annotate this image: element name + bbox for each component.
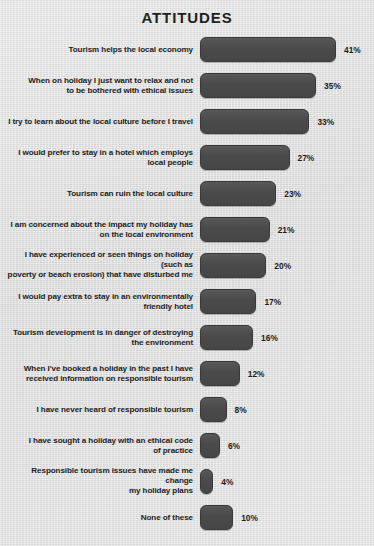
- bar-row: Tourism helps the local economy41%: [0, 37, 374, 62]
- bar-value-label: 20%: [274, 261, 291, 271]
- bar-value-label: 17%: [264, 297, 281, 307]
- bar-track: 8%: [200, 397, 374, 422]
- bar-category-label: I have never heard of responsible touris…: [7, 404, 193, 414]
- bar-row: Tourism can ruin the local culture23%: [0, 181, 374, 206]
- bar-category-label: I have sought a holiday with an ethical …: [7, 435, 193, 456]
- bar: [200, 217, 270, 242]
- bar-track: 6%: [200, 433, 374, 458]
- bar-category-label: Tourism helps the local economy: [7, 44, 193, 54]
- bar-category-label: I would prefer to stay in a hotel which …: [7, 147, 193, 168]
- bar-value-label: 33%: [317, 117, 334, 127]
- bar: [200, 73, 316, 98]
- bar: [200, 289, 256, 314]
- bar-value-label: 16%: [261, 333, 278, 343]
- bar-value-label: 41%: [344, 45, 361, 55]
- bar-value-label: 10%: [241, 513, 258, 523]
- bar: [200, 433, 220, 458]
- chart-title: ATTITUDES: [0, 9, 374, 26]
- bar: [200, 37, 336, 62]
- bar-row: When I've booked a holiday in the past I…: [0, 361, 374, 386]
- bar-category-label: I try to learn about the local culture b…: [7, 116, 193, 126]
- bar: [200, 253, 266, 278]
- bar-value-label: 12%: [248, 369, 265, 379]
- bar-row: I have sought a holiday with an ethical …: [0, 433, 374, 458]
- bar-category-label: I am concerned about the impact my holid…: [7, 219, 193, 240]
- bar-category-label: Responsible tourism issues have made me …: [7, 466, 193, 497]
- bar-row: I have never heard of responsible touris…: [0, 397, 374, 422]
- bar-track: 10%: [200, 505, 374, 530]
- bar-row: None of these10%: [0, 505, 374, 530]
- bar-value-label: 27%: [298, 153, 315, 163]
- bar-track: 41%: [200, 37, 374, 62]
- bar-row: I would prefer to stay in a hotel which …: [0, 145, 374, 170]
- bar-category-label: Tourism can ruin the local culture: [7, 188, 193, 198]
- bar-row: When on holiday I just want to relax and…: [0, 73, 374, 98]
- bar-track: 16%: [200, 325, 374, 350]
- bar-track: 12%: [200, 361, 374, 386]
- bar-value-label: 21%: [278, 225, 295, 235]
- bar-track: 21%: [200, 217, 374, 242]
- bar: [200, 181, 276, 206]
- bar-track: 17%: [200, 289, 374, 314]
- bar-category-label: None of these: [7, 512, 193, 522]
- bar-track: 4%: [200, 469, 374, 494]
- bar-value-label: 4%: [221, 477, 233, 487]
- bar-track: 27%: [200, 145, 374, 170]
- bar: [200, 397, 227, 422]
- bar-category-label: I have experienced or seen things on hol…: [7, 250, 193, 281]
- bar-value-label: 23%: [284, 189, 301, 199]
- bar-value-label: 8%: [235, 405, 247, 415]
- bar-track: 20%: [200, 253, 374, 278]
- attitudes-bar-chart: ATTITUDES Tourism helps the local econom…: [0, 0, 374, 546]
- bar-row: Tourism development is in danger of dest…: [0, 325, 374, 350]
- bar-value-label: 35%: [324, 81, 341, 91]
- bar: [200, 325, 253, 350]
- bar-row: Responsible tourism issues have made me …: [0, 469, 374, 494]
- bar-category-label: When I've booked a holiday in the past I…: [7, 363, 193, 384]
- bar-track: 33%: [200, 109, 374, 134]
- bar-category-label: Tourism development is in danger of dest…: [7, 327, 193, 348]
- bar-rows-container: Tourism helps the local economy41%When o…: [0, 37, 374, 541]
- bar-row: I have experienced or seen things on hol…: [0, 253, 374, 278]
- bar-category-label: When on holiday I just want to relax and…: [7, 75, 193, 96]
- bar: [200, 469, 213, 494]
- bar-category-label: I would pay extra to stay in an environm…: [7, 291, 193, 312]
- bar-track: 23%: [200, 181, 374, 206]
- bar-row: I would pay extra to stay in an environm…: [0, 289, 374, 314]
- bar: [200, 505, 233, 530]
- bar: [200, 109, 309, 134]
- bar-row: I try to learn about the local culture b…: [0, 109, 374, 134]
- bar-row: I am concerned about the impact my holid…: [0, 217, 374, 242]
- bar: [200, 361, 240, 386]
- bar: [200, 145, 290, 170]
- bar-value-label: 6%: [228, 441, 240, 451]
- bar-track: 35%: [200, 73, 374, 98]
